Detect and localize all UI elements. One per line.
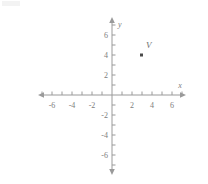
coordinate-plane-svg: -6 -4 -2 2 4 6 x: [0, 0, 208, 184]
y-tick-label-neg4: -4: [101, 131, 108, 140]
x-axis-left-arrow-icon: [38, 92, 44, 98]
x-tick-label-neg2: -2: [89, 101, 96, 110]
y-axis-bottom-arrow-icon: [109, 169, 115, 175]
x-tick-label-neg6: -6: [49, 101, 56, 110]
x-tick-label-neg4: -4: [69, 101, 76, 110]
y-tick-label-pos4: 4: [104, 51, 108, 60]
point-label-v: V: [146, 40, 153, 50]
y-tick-label-pos2: 2: [104, 71, 108, 80]
x-axis-label: x: [177, 81, 182, 90]
data-point-v[interactable]: V: [140, 40, 153, 57]
x-axis-right-arrow-icon: [180, 92, 186, 98]
x-tick-label-pos4: 4: [150, 101, 154, 110]
y-tick-label-neg6: -6: [101, 151, 108, 160]
x-tick-label-pos6: 6: [170, 101, 174, 110]
point-marker-v[interactable]: [140, 54, 143, 57]
y-axis-label: y: [117, 20, 122, 29]
y-tick-label-neg2: -2: [101, 111, 108, 120]
y-axis-group: 6 4 2 -2 -4 -6 y: [101, 17, 122, 175]
y-axis-top-arrow-icon: [109, 17, 115, 23]
x-tick-label-pos2: 2: [130, 101, 134, 110]
coordinate-plane-figure: -6 -4 -2 2 4 6 x: [0, 0, 208, 184]
y-tick-label-pos6: 6: [104, 31, 108, 40]
